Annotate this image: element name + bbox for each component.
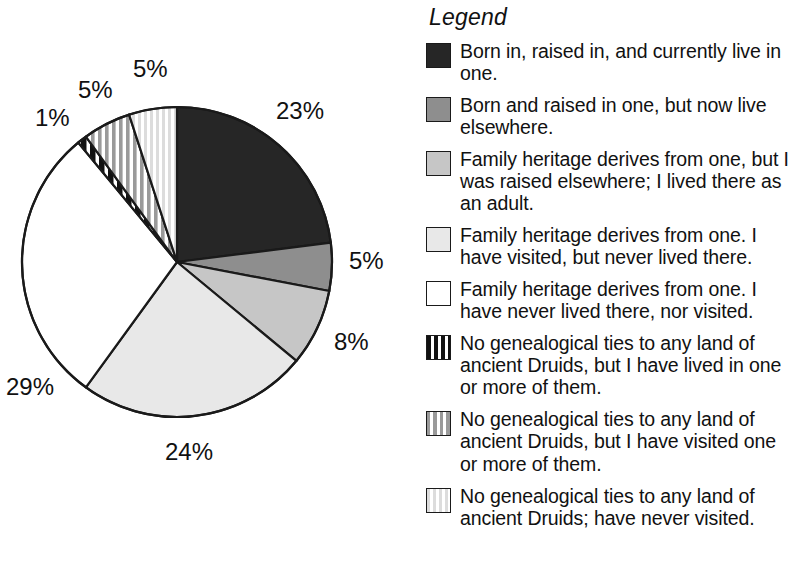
legend-item-label: Born and raised in one, but now live els… bbox=[460, 93, 798, 138]
legend-item-heritage-visited: Family heritage derives from one. I have… bbox=[426, 223, 798, 268]
legend-swatch-wrap bbox=[426, 93, 460, 122]
legend: Legend Born in, raised in, and currently… bbox=[426, 4, 798, 538]
pie-label-24: 24% bbox=[165, 440, 213, 464]
legend-item-born-raised-elsewhere: Born and raised in one, but now live els… bbox=[426, 93, 798, 138]
solid-white-swatch-icon bbox=[426, 281, 451, 306]
pie-label-29: 29% bbox=[6, 375, 54, 399]
legend-item-label: Family heritage derives from one, but I … bbox=[460, 147, 798, 214]
solid-very-light-gray-swatch-icon bbox=[426, 227, 451, 252]
pie-label-23: 23% bbox=[276, 99, 324, 123]
legend-item-label: No genealogical ties to any land of anci… bbox=[460, 407, 798, 474]
solid-black-swatch-icon bbox=[426, 43, 451, 68]
solid-light-gray-swatch-icon bbox=[426, 151, 451, 176]
legend-item-heritage-never: Family heritage derives from one. I have… bbox=[426, 277, 798, 322]
pie-label-5-born-raised: 5% bbox=[349, 249, 384, 273]
legend-item-noties-never: No genealogical ties to any land of anci… bbox=[426, 484, 798, 529]
gray-vertical-stripes-swatch-icon bbox=[426, 411, 451, 436]
legend-item-noties-lived: No genealogical ties to any land of anci… bbox=[426, 331, 798, 398]
legend-item-label: Family heritage derives from one. I have… bbox=[460, 223, 798, 268]
legend-swatch-wrap bbox=[426, 147, 460, 176]
pie-label-5-visited: 5% bbox=[133, 57, 168, 81]
solid-medium-gray-swatch-icon bbox=[426, 97, 451, 122]
legend-item-born-raised-live: Born in, raised in, and currently live i… bbox=[426, 39, 798, 84]
legend-item-heritage-lived-adult: Family heritage derives from one, but I … bbox=[426, 147, 798, 214]
pie-label-5-lived: 5% bbox=[78, 78, 113, 102]
legend-item-label: Born in, raised in, and currently live i… bbox=[460, 39, 798, 84]
legend-swatch-wrap bbox=[426, 484, 460, 513]
pie-chart-figure: 23% 5% 8% 24% 29% 1% 5% 5% Legend Born i… bbox=[0, 0, 802, 573]
legend-swatch-wrap bbox=[426, 277, 460, 306]
legend-item-noties-visited: No genealogical ties to any land of anci… bbox=[426, 407, 798, 474]
legend-swatch-wrap bbox=[426, 39, 460, 68]
pie-label-1: 1% bbox=[35, 106, 70, 130]
legend-item-label: Family heritage derives from one. I have… bbox=[460, 277, 798, 322]
pie-slice-born-raised-live bbox=[177, 107, 331, 262]
black-vertical-stripes-swatch-icon bbox=[426, 335, 451, 360]
legend-swatch-wrap bbox=[426, 407, 460, 436]
pie-chart-area: 23% 5% 8% 24% 29% 1% 5% 5% bbox=[0, 0, 420, 573]
legend-title: Legend bbox=[429, 4, 798, 31]
pie-label-8: 8% bbox=[334, 330, 369, 354]
pie-chart-graphic bbox=[0, 0, 420, 573]
legend-swatch-wrap bbox=[426, 331, 460, 360]
legend-item-label: No genealogical ties to any land of anci… bbox=[460, 484, 798, 529]
legend-swatch-wrap bbox=[426, 223, 460, 252]
legend-item-label: No genealogical ties to any land of anci… bbox=[460, 331, 798, 398]
light-vertical-stripes-swatch-icon bbox=[426, 488, 451, 513]
